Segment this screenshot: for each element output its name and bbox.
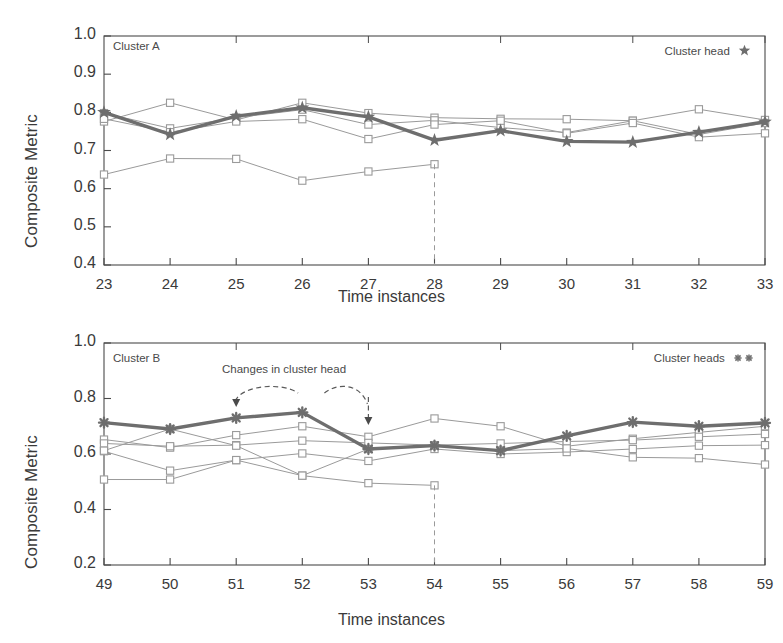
marker-square (299, 423, 306, 430)
marker-square (695, 106, 702, 113)
annotation-arrow-curve-2 (324, 386, 367, 404)
marker-square (695, 442, 702, 449)
marker-square (299, 472, 306, 479)
plot-canvas (0, 0, 783, 643)
marker-square (100, 440, 107, 447)
marker-asterisk (760, 418, 770, 428)
marker-square (761, 130, 768, 137)
x-tick-label-cluster-a: 28 (415, 275, 455, 292)
marker-square (629, 454, 636, 461)
x-tick-label-cluster-b: 58 (679, 575, 719, 592)
marker-square (167, 476, 174, 483)
x-tick-label-cluster-b: 52 (282, 575, 322, 592)
marker-star (494, 123, 508, 136)
x-tick-label-cluster-b: 57 (613, 575, 653, 592)
x-tick-label-cluster-a: 26 (282, 275, 322, 292)
marker-square (761, 430, 768, 437)
y-tick-label-cluster-a: 1.0 (42, 25, 96, 43)
marker-square (695, 455, 702, 462)
x-tick-label-cluster-b: 56 (547, 575, 587, 592)
marker-square (563, 116, 570, 123)
x-tick-label-cluster-b: 50 (150, 575, 190, 592)
marker-square (431, 121, 438, 128)
marker-square (299, 177, 306, 184)
marker-square (100, 171, 107, 178)
marker-star (560, 134, 574, 147)
x-tick-label-cluster-a: 33 (745, 275, 783, 292)
marker-square (167, 467, 174, 474)
y-tick-label-cluster-b: 0.8 (42, 388, 96, 406)
marker-square (299, 116, 306, 123)
annotation-arrowhead (364, 417, 372, 425)
marker-asterisk (628, 417, 638, 427)
y-tick-label-cluster-a: 0.4 (42, 254, 96, 272)
series-departing-member (100, 155, 438, 184)
marker-square (299, 437, 306, 444)
marker-square (167, 155, 174, 162)
marker-square (233, 432, 240, 439)
x-tick-label-cluster-a: 25 (216, 275, 256, 292)
x-tick-label-cluster-b: 59 (745, 575, 783, 592)
marker-square (100, 447, 107, 454)
marker-square (233, 442, 240, 449)
y-tick-label-cluster-b: 0.4 (42, 499, 96, 517)
figure: Composite Metric Cluster A Cluster head … (0, 0, 783, 643)
marker-square (365, 121, 372, 128)
marker-star (163, 127, 177, 140)
marker-asterisk (694, 421, 704, 431)
y-tick-label-cluster-a: 0.8 (42, 101, 96, 119)
marker-square (761, 461, 768, 468)
marker-square (365, 457, 372, 464)
marker-square (299, 450, 306, 457)
y-tick-label-cluster-a: 0.5 (42, 216, 96, 234)
x-tick-label-cluster-a: 23 (84, 275, 124, 292)
marker-asterisk (496, 446, 506, 456)
x-tick-label-cluster-b: 54 (415, 575, 455, 592)
x-tick-label-cluster-b: 49 (84, 575, 124, 592)
chart-cluster-a (97, 36, 772, 265)
marker-asterisk (363, 444, 373, 454)
marker-square (497, 117, 504, 124)
y-tick-label-cluster-b: 1.0 (42, 332, 96, 350)
marker-square (431, 415, 438, 422)
series-departing-member (100, 457, 438, 489)
marker-square (100, 476, 107, 483)
chart-cluster-b (99, 343, 770, 565)
marker-square (167, 99, 174, 106)
x-tick-label-cluster-b: 55 (481, 575, 521, 592)
marker-square (563, 445, 570, 452)
y-tick-label-cluster-a: 0.7 (42, 140, 96, 158)
y-tick-label-cluster-b: 0.2 (42, 554, 96, 572)
marker-square (629, 445, 636, 452)
x-tick-label-cluster-a: 31 (613, 275, 653, 292)
annotation-arrow-curve-1 (235, 386, 298, 401)
marker-square (629, 119, 636, 126)
marker-square (365, 135, 372, 142)
x-tick-label-cluster-a: 32 (679, 275, 719, 292)
marker-star (428, 133, 442, 146)
marker-asterisk (231, 413, 241, 423)
marker-asterisk (430, 441, 440, 451)
marker-asterisk (562, 431, 572, 441)
marker-asterisk (99, 418, 109, 428)
marker-square (497, 423, 504, 430)
annotation-arrows (232, 386, 372, 425)
marker-square (761, 442, 768, 449)
marker-asterisk (165, 424, 175, 434)
y-tick-label-cluster-a: 0.6 (42, 178, 96, 196)
series-line (104, 159, 435, 181)
y-tick-label-cluster-a: 0.9 (42, 63, 96, 81)
marker-star (626, 135, 640, 148)
x-tick-label-cluster-b: 51 (216, 575, 256, 592)
marker-square (365, 168, 372, 175)
x-tick-label-cluster-a: 24 (150, 275, 190, 292)
marker-square (365, 480, 372, 487)
x-tick-label-cluster-b: 53 (348, 575, 388, 592)
marker-asterisk (297, 407, 307, 417)
x-tick-label-cluster-a: 30 (547, 275, 587, 292)
marker-square (233, 155, 240, 162)
marker-square (695, 433, 702, 440)
marker-square (233, 457, 240, 464)
annotation-arrowhead (232, 399, 240, 407)
marker-square (629, 437, 636, 444)
